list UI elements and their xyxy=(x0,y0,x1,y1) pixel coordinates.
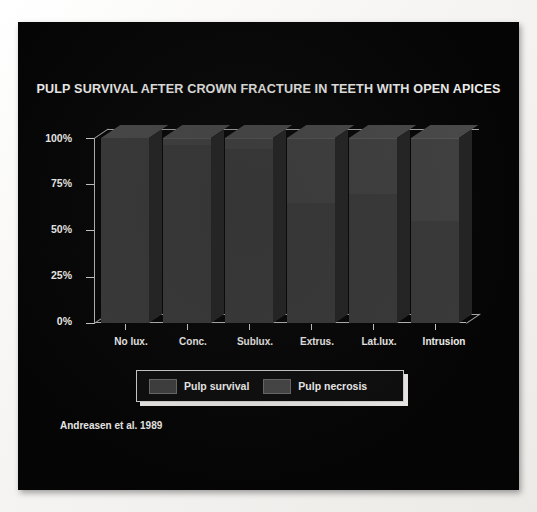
legend-label-pulp-survival: Pulp survival xyxy=(184,380,249,392)
x-tick xyxy=(311,324,312,330)
x-axis-label-conc: Conc. xyxy=(163,336,223,347)
segment-necrosis xyxy=(225,138,273,149)
bar-group-lat-lux[interactable] xyxy=(349,138,397,323)
bar-group-sublux[interactable] xyxy=(225,138,273,323)
bar-group-extrus[interactable] xyxy=(287,138,335,323)
y-tick-label-50: 50% xyxy=(18,223,72,235)
x-axis-label-extrus: Extrus. xyxy=(287,336,347,347)
segment-survival xyxy=(225,149,273,323)
legend-item-pulp-necrosis[interactable]: Pulp necrosis xyxy=(263,379,367,394)
x-axis-label-no-lux: No lux. xyxy=(101,336,161,347)
bar-front-face xyxy=(225,138,273,323)
photo-frame: PULP SURVIVAL AFTER CROWN FRACTURE IN TE… xyxy=(0,0,537,512)
x-tick xyxy=(125,324,126,330)
bar-front-face xyxy=(287,138,335,323)
segment-survival xyxy=(163,145,211,323)
bar-series-container xyxy=(95,138,467,323)
plot-area: 100% 75% 50% 25% 0% xyxy=(58,130,478,355)
bar-side-face xyxy=(273,129,286,323)
bar-front-face xyxy=(101,138,149,323)
x-tick xyxy=(249,324,250,330)
chart-title: PULP SURVIVAL AFTER CROWN FRACTURE IN TE… xyxy=(18,82,519,96)
x-tick xyxy=(435,324,436,330)
x-tick xyxy=(373,324,374,330)
segment-survival xyxy=(101,138,149,323)
x-tick xyxy=(187,324,188,330)
bar-group-no-lux[interactable] xyxy=(101,138,149,323)
segment-necrosis xyxy=(287,138,335,203)
legend-label-pulp-necrosis: Pulp necrosis xyxy=(298,380,367,392)
y-tick-label-25: 25% xyxy=(18,269,72,281)
bar-group-conc[interactable] xyxy=(163,138,211,323)
segment-necrosis xyxy=(411,138,459,221)
x-axis-label-intrusion: Intrusion xyxy=(410,336,478,347)
y-tick-label-75: 75% xyxy=(18,177,72,189)
segment-necrosis xyxy=(349,138,397,194)
segment-survival xyxy=(411,221,459,323)
legend-swatch-icon xyxy=(149,379,177,394)
bar-side-face xyxy=(459,129,472,323)
citation-text: Andreasen et al. 1989 xyxy=(60,420,162,431)
bar-side-face xyxy=(335,129,348,323)
segment-survival xyxy=(349,194,397,324)
y-tick-label-100: 100% xyxy=(18,132,72,144)
bar-group-intrusion[interactable] xyxy=(411,138,459,323)
x-axis-label-sublux: Sublux. xyxy=(225,336,285,347)
y-tick-label-0: 0% xyxy=(18,315,72,327)
segment-necrosis xyxy=(163,138,211,145)
bar-front-face xyxy=(411,138,459,323)
bar-side-face xyxy=(397,129,410,323)
chart-legend: Pulp survival Pulp necrosis xyxy=(136,370,404,402)
bar-side-face xyxy=(149,129,162,323)
bar-front-face xyxy=(349,138,397,323)
legend-item-pulp-survival[interactable]: Pulp survival xyxy=(149,379,249,394)
segment-survival xyxy=(287,203,335,323)
bar-side-face xyxy=(211,129,224,323)
slide-canvas: PULP SURVIVAL AFTER CROWN FRACTURE IN TE… xyxy=(18,22,519,490)
legend-swatch-icon xyxy=(263,379,291,394)
bar-front-face xyxy=(163,138,211,323)
x-axis-label-lat-lux: Lat.lux. xyxy=(349,336,409,347)
